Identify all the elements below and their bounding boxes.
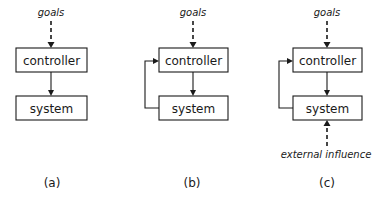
goals-label: goals: [180, 7, 207, 18]
feedback-arrowhead: [153, 58, 159, 64]
control-arrowhead: [190, 90, 196, 96]
external-influence-arrowhead: [324, 120, 331, 126]
caption-a: (a): [44, 176, 61, 190]
diagram-b: goals controller system (b): [145, 7, 228, 190]
goals-label: goals: [314, 7, 341, 18]
controller-label: controller: [165, 54, 222, 68]
feedback-loop-line: [145, 61, 159, 108]
control-diagrams: goals controller system (a) goals contro…: [0, 0, 384, 199]
controller-label: controller: [299, 54, 356, 68]
system-label: system: [306, 102, 349, 116]
control-arrowhead: [324, 90, 330, 96]
caption-b: (b): [184, 176, 201, 190]
control-arrowhead: [48, 90, 54, 96]
goals-arrowhead: [190, 42, 197, 48]
feedback-arrowhead: [287, 58, 293, 64]
external-influence-label: external influence: [281, 149, 372, 160]
goals-arrowhead: [324, 42, 331, 48]
caption-c: (c): [319, 176, 335, 190]
system-label: system: [30, 102, 73, 116]
diagram-a: goals controller system (a): [16, 7, 87, 190]
feedback-loop-line: [279, 61, 293, 108]
goals-arrowhead: [48, 42, 55, 48]
diagram-c: goals controller system external influen…: [279, 7, 371, 190]
system-label: system: [172, 102, 215, 116]
goals-label: goals: [38, 7, 65, 18]
controller-label: controller: [23, 54, 80, 68]
